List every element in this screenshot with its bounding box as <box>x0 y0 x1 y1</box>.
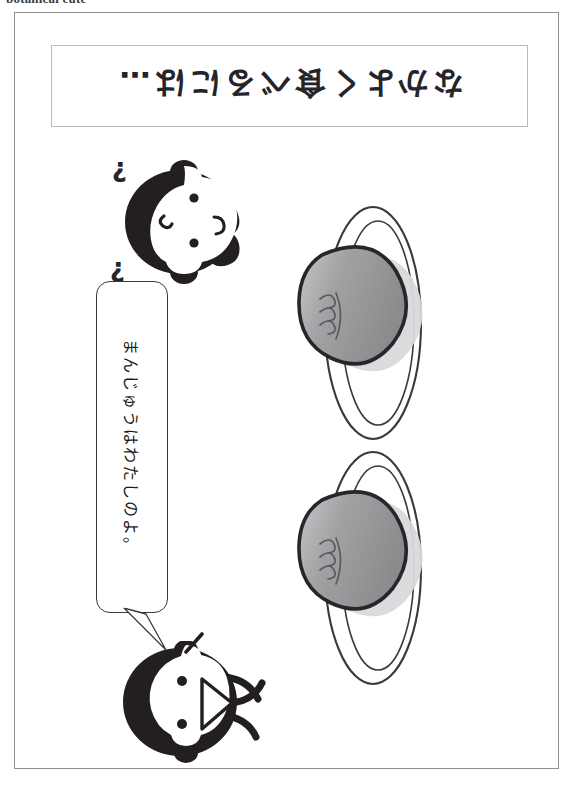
speech-balloon: まんじゅうはわたしのよ。 <box>96 281 168 613</box>
character-top-face-svg <box>118 160 248 285</box>
title-panel: なかよく食べるには… <box>51 45 528 127</box>
character-bottom-face-svg <box>120 641 270 763</box>
emphasis-stroke-icon <box>178 632 208 656</box>
speech-balloon-text: まんじゅうはわたしのよ。 <box>120 339 144 555</box>
character-top-confused: ? ? <box>118 160 248 285</box>
title-text: なかよく食べるには… <box>52 46 527 126</box>
plate-top <box>296 203 451 448</box>
manju-body <box>299 492 406 609</box>
header-caption: botanical cute <box>6 0 86 3</box>
plate-top-svg <box>296 203 451 448</box>
manju-body <box>299 247 406 364</box>
plate-bottom-svg <box>296 448 451 693</box>
question-mark-icon-1: ? <box>112 156 127 186</box>
character-bottom-speaking <box>120 641 270 763</box>
plate-bottom <box>296 448 451 693</box>
comic-page: botanical cute なかよく食べるには… <box>0 0 573 796</box>
